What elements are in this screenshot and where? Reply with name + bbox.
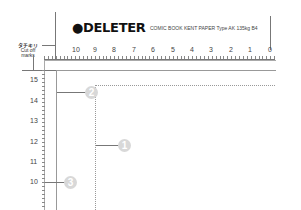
safe-area-left-dotted: [95, 85, 96, 210]
callout-1-badge: 1: [118, 139, 131, 152]
safe-area-top-dotted: [95, 85, 275, 86]
outer-frame-top: [44, 60, 276, 61]
top-ruler: 10 9 8 7 6 5 4 3 2 1 0: [0, 0, 301, 60]
callout-2-badge: 2: [85, 86, 98, 99]
callout-1-leader: [96, 145, 120, 146]
left-ruler: 15 14 13 12 11 10: [0, 60, 50, 210]
left-ruler-ticks: [42, 70, 45, 210]
callout-3-badge: 3: [64, 176, 77, 189]
callout-3-leader: [45, 182, 65, 183]
inner-frame-left: [56, 70, 57, 210]
callout-2-leader: [57, 92, 87, 93]
inner-frame-top: [56, 70, 276, 71]
